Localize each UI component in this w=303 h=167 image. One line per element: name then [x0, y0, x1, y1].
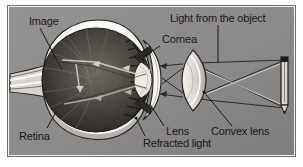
label-light-from-the-object: Light from the object — [170, 12, 266, 24]
label-retina: Retina — [19, 130, 51, 142]
label-image: Image — [29, 15, 59, 27]
label-cornea: Cornea — [162, 33, 198, 45]
label-refracted-light: Refracted light — [143, 137, 211, 149]
eye-convex-lens-diagram: Image Retina Cornea Light from the objec… — [0, 0, 303, 167]
label-lens: Lens — [166, 125, 190, 137]
label-convex-lens: Convex lens — [211, 125, 270, 137]
object-pencil — [281, 57, 288, 114]
